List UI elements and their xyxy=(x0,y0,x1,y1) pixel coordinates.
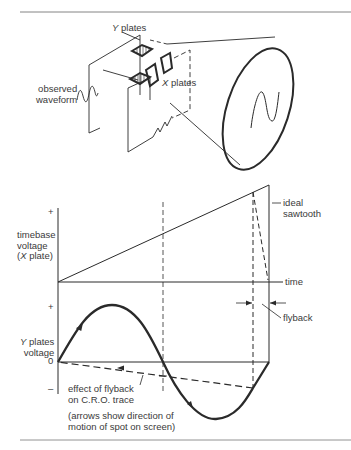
arrows-note: (arrows show direction of motion of spot… xyxy=(68,411,175,432)
y-plates-label: Y plates xyxy=(112,23,146,34)
timebase-plus: + xyxy=(48,207,54,218)
ideal-sawtooth-label: ideal sawtooth xyxy=(283,198,321,219)
crt-screen xyxy=(209,40,307,179)
cro-plates-illustration xyxy=(77,32,275,165)
zero-label: 0 xyxy=(48,356,53,367)
flyback-label: flyback xyxy=(283,313,313,324)
effect-of-flyback-label: effect of flyback on C.R.O. trace xyxy=(68,384,134,405)
yplates-plus: + xyxy=(48,302,54,313)
observed-waveform-label: observed waveform xyxy=(36,84,77,105)
timebase-voltage-label: timebase voltage (X plate) xyxy=(17,230,56,262)
time-axis-label: time xyxy=(285,277,303,288)
minus-label: – xyxy=(48,384,53,395)
screen-trace xyxy=(251,92,279,128)
x-plates-label: X plates xyxy=(162,78,196,89)
